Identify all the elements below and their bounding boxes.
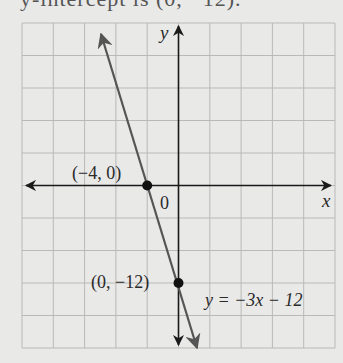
point-label-y-intercept: (0, −12) [91, 272, 149, 293]
y-intercept-point [174, 278, 184, 288]
coordinate-plane: y x 0 (−4, 0) (0, −12) y = −3x − 12 [0, 0, 343, 363]
x-axis-label: x [321, 190, 331, 211]
equation-label: y = −3x − 12 [203, 290, 302, 310]
y-axis-label: y [158, 22, 169, 43]
origin-label: 0 [160, 193, 169, 213]
point-label-x-intercept: (−4, 0) [72, 163, 121, 184]
x-intercept-point [142, 181, 152, 191]
